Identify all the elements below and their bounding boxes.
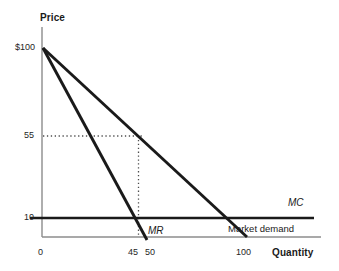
market-demand-curve-label: Market demand bbox=[228, 224, 294, 234]
marginal-revenue-curve-label: MR bbox=[148, 226, 164, 236]
x-tick-label-100: 100 bbox=[236, 248, 251, 257]
monopoly-price-quantity-chart: Price Quantity $100 55 10 0 45 50 100 MR… bbox=[0, 0, 339, 271]
marginal-revenue-curve bbox=[43, 48, 147, 240]
x-axis-title: Quantity bbox=[272, 248, 313, 258]
y-tick-label-100: $100 bbox=[15, 43, 35, 52]
y-axis-title: Price bbox=[40, 13, 65, 23]
y-tick-label-55: 55 bbox=[24, 131, 34, 140]
x-tick-label-50: 50 bbox=[145, 248, 155, 257]
x-tick-label-45: 45 bbox=[128, 248, 138, 257]
marginal-cost-curve-label: MC bbox=[288, 198, 304, 208]
y-tick-label-10: 10 bbox=[24, 213, 34, 222]
origin-label: 0 bbox=[38, 248, 43, 257]
market-demand-curve bbox=[43, 48, 247, 237]
